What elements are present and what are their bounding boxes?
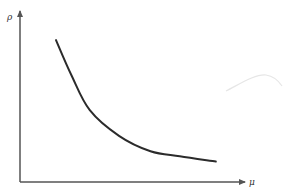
- y-axis-label: ρ: [7, 13, 12, 22]
- faint-artifact-curve: [226, 75, 282, 91]
- chart: ρ μ: [0, 0, 284, 193]
- data-curve: [56, 40, 216, 161]
- x-axis-label: μ: [249, 178, 255, 187]
- chart-canvas: [0, 0, 284, 193]
